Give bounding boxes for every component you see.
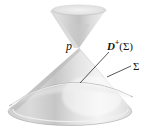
sigma-leader-line <box>107 66 131 77</box>
dplus-symbol: D <box>107 40 115 52</box>
label-domain-of-dependence: D+(Σ) <box>107 39 133 52</box>
light-cone-figure: p D+(Σ) Σ <box>0 0 156 131</box>
dplus-close-paren: ) <box>129 40 133 52</box>
upper-cone <box>50 5 106 48</box>
lower-cone-specular-highlight <box>62 76 122 116</box>
label-apex-point: p <box>66 40 72 52</box>
label-hypersurface-sigma: Σ <box>133 61 139 72</box>
